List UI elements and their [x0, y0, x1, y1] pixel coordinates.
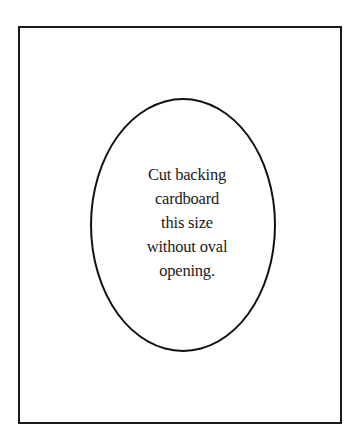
instruction-line-2: cardboard: [127, 187, 247, 211]
instruction-line-5: opening.: [127, 259, 247, 283]
cut-instruction-text: Cut backing cardboard this size without …: [127, 163, 247, 283]
instruction-line-4: without oval: [127, 235, 247, 259]
instruction-line-3: this size: [127, 211, 247, 235]
instruction-line-1: Cut backing: [127, 163, 247, 187]
